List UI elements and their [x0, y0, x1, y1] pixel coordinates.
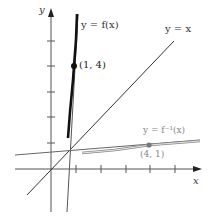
y-axis-label: y [39, 4, 45, 15]
y-axis [47, 8, 55, 212]
x-axis-arrow-icon [193, 166, 202, 172]
point-4-1 [146, 142, 151, 147]
f-curve-label: y = f(x) [81, 19, 119, 30]
y-axis-arrow-icon [48, 8, 54, 17]
point-1-4 [71, 63, 77, 69]
point-4-1-label: (4, 1) [140, 149, 164, 159]
x-axis [15, 165, 202, 173]
identity-line-label: y = x [165, 23, 191, 34]
inverse-function-diagram: y x y = f(x) (1, 4) y = x y = f⁻¹(x) (4,… [0, 0, 214, 219]
f-inverse-label: y = f⁻¹(x) [143, 125, 185, 135]
point-1-4-label: (1, 4) [79, 59, 106, 70]
x-axis-label: x [193, 175, 199, 186]
